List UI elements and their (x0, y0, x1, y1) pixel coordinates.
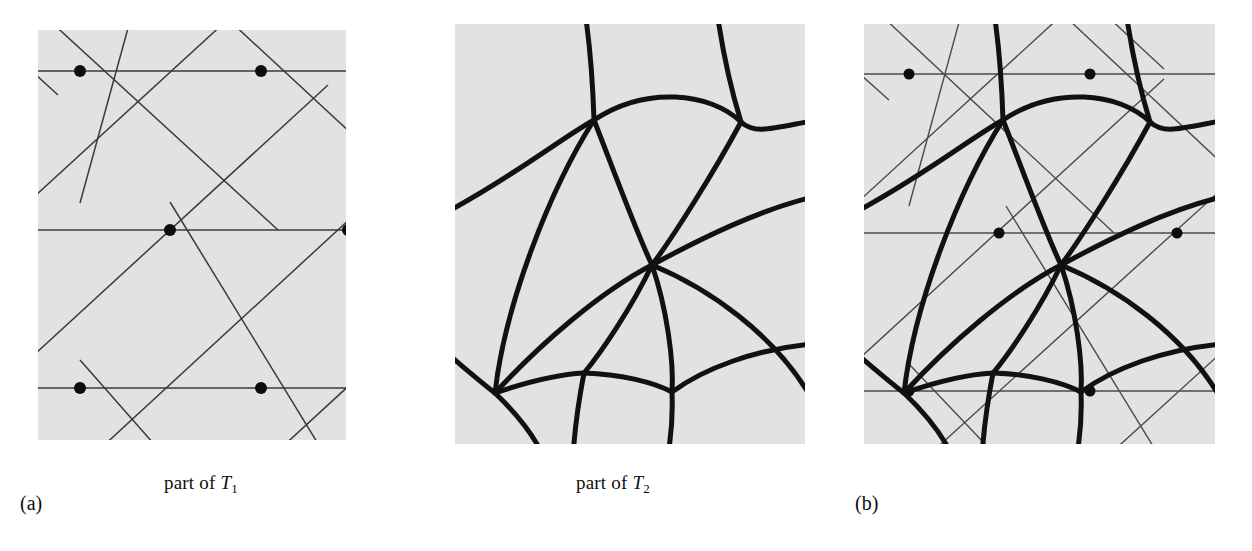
caption-t2-symbol: T (632, 472, 643, 493)
caption-t1: part of T1 (164, 472, 238, 497)
panel-overlay-svg (864, 24, 1215, 444)
panel-t1-background (38, 30, 346, 440)
caption-t2-index: 2 (643, 481, 650, 496)
lattice-vertex (904, 69, 915, 80)
panel-t1 (38, 30, 346, 440)
lattice-vertex (994, 228, 1005, 239)
lattice-vertex (74, 382, 86, 394)
panel-t2-svg (455, 24, 805, 444)
panel-letter-b: (b) (855, 492, 878, 515)
caption-t2: part of T2 (576, 472, 650, 497)
lattice-vertex (1172, 228, 1183, 239)
lattice-vertex (1085, 69, 1096, 80)
lattice-vertex (164, 224, 176, 236)
caption-t1-index: 1 (231, 481, 238, 496)
panel-letter-a: (a) (20, 492, 42, 515)
caption-t1-prefix: part of (164, 472, 220, 493)
caption-t2-prefix: part of (576, 472, 632, 493)
caption-t1-symbol: T (220, 472, 231, 493)
lattice-vertex (255, 65, 267, 77)
panel-t2 (455, 24, 805, 444)
lattice-vertex (255, 382, 267, 394)
figure-root: part of T1 part of T2 (a) (b) (0, 0, 1252, 551)
panel-t1-svg (38, 30, 346, 440)
panel-overlay (864, 24, 1215, 444)
lattice-vertex (74, 65, 86, 77)
